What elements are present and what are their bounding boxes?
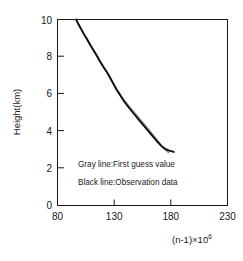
y-axis-title: Height(km) — [11, 89, 22, 135]
x-ticklabel-230: 230 — [219, 211, 236, 222]
y-ticklabel-2: 2 — [46, 163, 52, 174]
x-ticklabel-80: 80 — [52, 211, 64, 222]
y-ticklabel-10: 10 — [41, 15, 53, 26]
y-ticklabel-8: 8 — [46, 51, 52, 62]
svg-text:(n-1)×106: (n-1)×106 — [172, 233, 212, 245]
y-ticklabel-6: 6 — [46, 88, 52, 99]
x-axis-title-base: (n-1)×10 — [172, 234, 208, 245]
refractivity-height-chart: 10 8 6 4 2 0 80 130 180 230 Height(km) (… — [0, 0, 243, 261]
x-ticklabel-180: 180 — [162, 211, 179, 222]
x-ticklabel-130: 130 — [106, 211, 123, 222]
legend-entry-black: Black line:Observation data — [78, 178, 178, 187]
x-axis-title: (n-1)×106 — [172, 233, 212, 245]
legend-entry-gray: Gray line:First guess value — [78, 160, 175, 169]
x-axis-title-exponent: 6 — [208, 233, 212, 240]
y-ticklabel-0: 0 — [46, 200, 52, 211]
y-ticklabel-4: 4 — [46, 126, 52, 137]
